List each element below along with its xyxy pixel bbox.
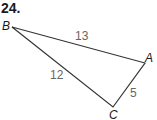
triangle-diagram: B A C 13 12 5 (0, 0, 157, 120)
side-label-bc: 12 (50, 68, 64, 82)
side-label-ba: 13 (75, 29, 89, 43)
vertex-label-a: A (144, 51, 153, 65)
vertex-label-b: B (2, 19, 10, 33)
vertex-label-c: C (109, 108, 118, 120)
side-label-ac: 5 (130, 86, 137, 100)
